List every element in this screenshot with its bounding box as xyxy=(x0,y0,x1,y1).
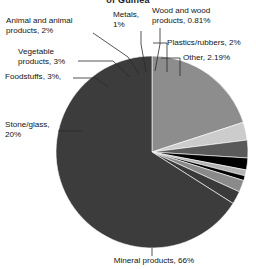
pie-chart-figure: of Guinea Animal and animal products, 2%… xyxy=(0,0,256,269)
leader-plastics xyxy=(153,43,167,72)
label-animal-products: Animal and animal products, 2% xyxy=(6,16,111,36)
label-plastics-rubbers: Plastics/rubbers, 2% xyxy=(167,38,256,48)
label-mineral-products: Mineral products, 66% xyxy=(66,256,242,266)
label-stone-glass: Stone/glass, 20% xyxy=(5,120,65,140)
label-wood-products: Wood and wood products, 0.81% xyxy=(152,6,254,26)
leader-foodstuffs xyxy=(73,78,108,87)
label-foodstuffs: Foodstuffs, 3%, xyxy=(5,72,77,82)
label-vegetable-products: Vegetable products, 3% xyxy=(18,47,90,67)
leader-animal xyxy=(93,33,139,74)
leader-metals xyxy=(141,31,146,72)
label-other: Other, 2.19% xyxy=(183,53,255,63)
leader-wood xyxy=(155,28,160,71)
leader-other xyxy=(161,58,180,76)
label-metals: Metals, 1% xyxy=(113,10,147,30)
